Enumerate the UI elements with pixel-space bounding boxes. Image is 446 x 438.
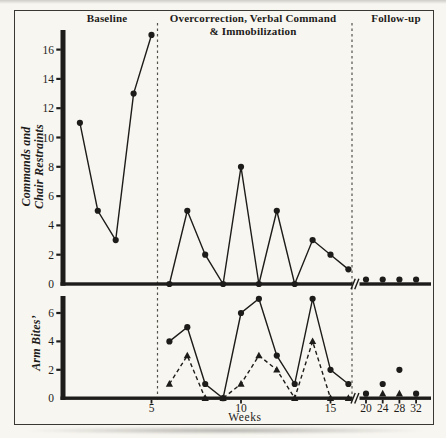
- figure: 024681012141602465101520242832 Baseline …: [0, 0, 446, 438]
- y-axis-label-top-line2: Chair Restraints: [33, 87, 46, 247]
- phase-label-followup: Follow-up: [345, 12, 446, 25]
- phase-label-treatment-line1: Overcorrection, Verbal Command: [153, 12, 353, 25]
- x-axis-label: Weeks: [195, 411, 295, 423]
- phase-label-baseline: Baseline: [47, 12, 167, 25]
- phase-label-treatment-line2: & Immobilization: [153, 25, 353, 38]
- y-axis-label-top: Commands and Chair Restraints: [20, 87, 47, 247]
- y-axis-label-bottom-line1: Arm Bites’: [30, 283, 43, 403]
- phase-label-treatment: Overcorrection, Verbal Command & Immobil…: [153, 12, 353, 38]
- scan-artifact-bottom: [28, 427, 423, 434]
- y-axis-label-bottom: Arm Bites’: [30, 283, 44, 403]
- figure-border: [14, 10, 434, 425]
